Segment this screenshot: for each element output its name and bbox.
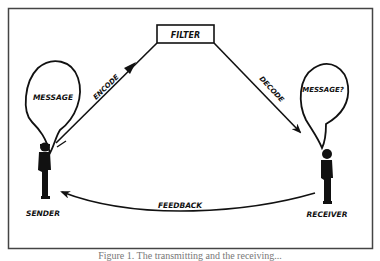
decode-arrow: DECODE (214, 43, 300, 132)
encode-label: ENCODE (92, 73, 121, 101)
feedback-label: FEEDBACK (158, 201, 203, 210)
sender-label: SENDER (26, 209, 60, 218)
feedback-arrow: FEEDBACK (62, 192, 315, 211)
receiver-speech-bubble: MESSAGE? (301, 64, 349, 148)
filter-box: FILTER (157, 25, 214, 43)
filter-label: FILTER (171, 31, 200, 40)
figure-caption: Figure 1. The transmitting and the recei… (0, 251, 380, 261)
receiver-bubble-text: MESSAGE? (302, 86, 344, 94)
receiver-figure-icon (321, 149, 333, 204)
sender-speech-bubble: MESSAGE (26, 61, 80, 153)
receiver-label: RECEIVER (306, 210, 347, 219)
decode-label: DECODE (258, 75, 286, 104)
sender-bubble-text: MESSAGE (33, 93, 74, 102)
